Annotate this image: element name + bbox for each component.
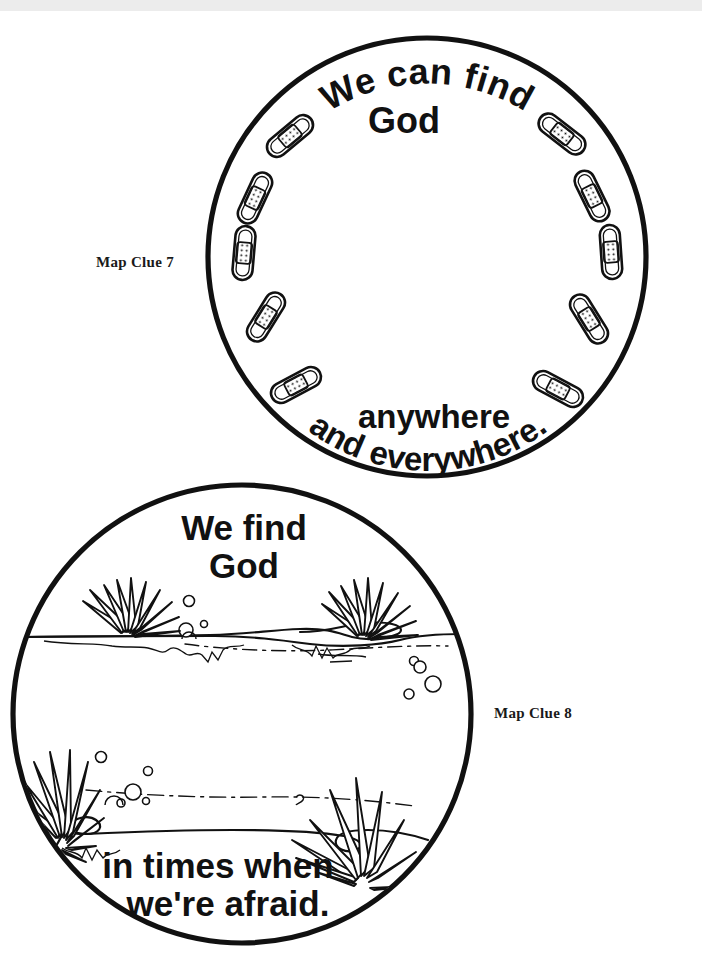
circle-7-bottom-straight-text: anywhere <box>358 398 510 435</box>
map-clue-8-label: Map Clue 8 <box>494 705 572 722</box>
circle-map-clue-7: We can find God anywhere and everywhere. <box>208 38 646 478</box>
bandage-icon <box>599 224 623 279</box>
circle-8-bottom-line2-text: we're afraid. <box>126 884 330 923</box>
circle-8-top-line1-text: We find <box>181 508 307 547</box>
bandage-icon <box>232 225 257 281</box>
circle-8-top-line2-text: God <box>209 546 279 585</box>
coloring-page: We can find God anywhere and everywhere. <box>0 0 702 975</box>
circle-map-clue-8: We find God in times when we're afraid. <box>13 485 471 943</box>
circle-7-top-second-text: God <box>368 100 440 141</box>
artwork-canvas: We can find God anywhere and everywhere. <box>0 0 702 975</box>
circle-8-bottom-line1-text: in times when <box>102 846 333 885</box>
map-clue-7-label: Map Clue 7 <box>96 254 174 271</box>
